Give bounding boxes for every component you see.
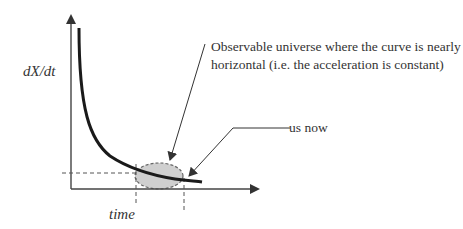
us-now-leader-line bbox=[189, 128, 290, 176]
y-axis-label: dX/dt bbox=[23, 63, 56, 79]
region-annotation-line1: Observable universe where the curve is n… bbox=[211, 39, 461, 54]
x-axis-arrowhead bbox=[250, 184, 260, 194]
decay-curve bbox=[79, 28, 202, 182]
region-annotation-arrow bbox=[170, 44, 205, 160]
diagram-canvas: dX/dt time Observable universe where the… bbox=[0, 0, 463, 229]
region-annotation-line2: horizontal (i.e. the acceleration is con… bbox=[211, 57, 444, 72]
us-now-label: us now bbox=[289, 120, 328, 135]
x-axis-label: time bbox=[109, 206, 135, 222]
y-axis-arrowhead bbox=[66, 14, 76, 24]
